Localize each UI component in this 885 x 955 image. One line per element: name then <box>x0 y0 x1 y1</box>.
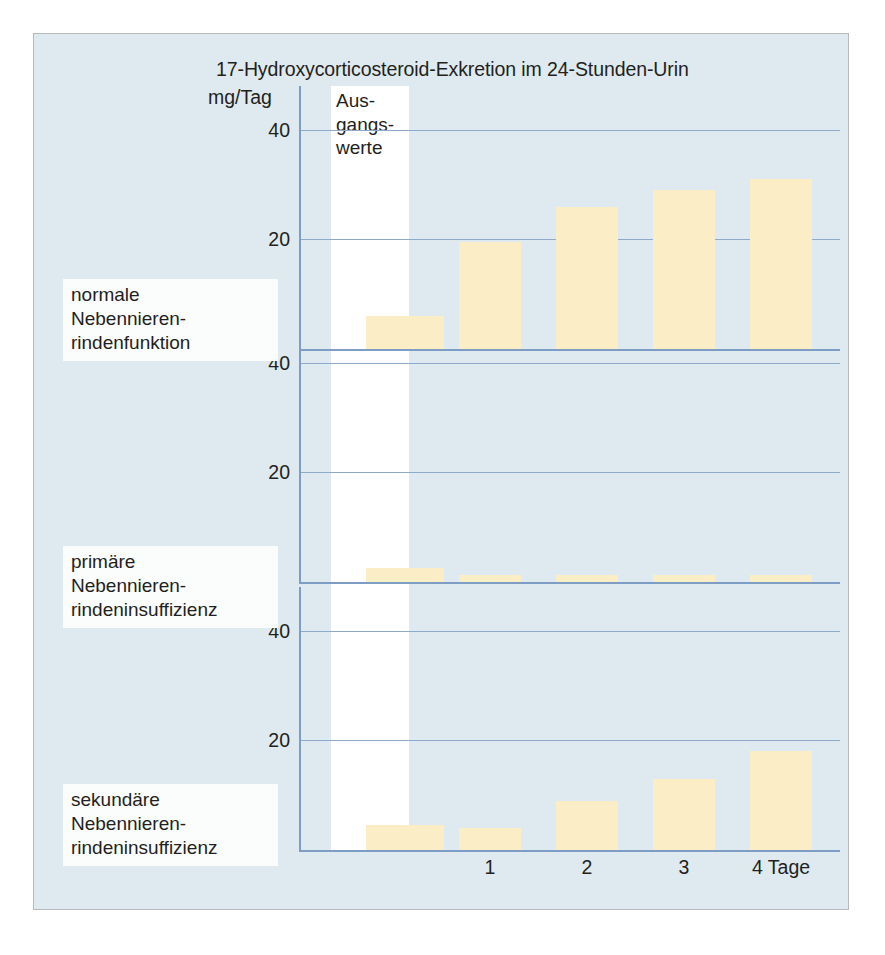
y-tick-label-20: 20 <box>268 228 290 251</box>
gridline-40 <box>301 363 840 364</box>
bar-day-4 <box>750 575 812 582</box>
bar-day-1 <box>459 828 521 850</box>
x-axis-line <box>299 582 840 584</box>
panel-caption-normal: normale Nebennieren- rindenfunktion <box>63 279 278 361</box>
bar-day-2 <box>556 575 618 582</box>
figure-panel: 17-Hydroxycorticosteroid-Exkretion im 24… <box>33 33 849 910</box>
y-tick-label-40: 40 <box>268 118 290 141</box>
y-axis-line <box>299 587 301 852</box>
bar-day-1 <box>459 575 521 582</box>
x-tick-label-3: 3 <box>679 856 690 879</box>
plot-area: 2040 <box>299 319 839 584</box>
gridline-20 <box>301 740 840 741</box>
chart-title: 17-Hydroxycorticosteroid-Exkretion im 24… <box>216 58 689 81</box>
y-axis-unit-label: mg/Tag <box>208 86 272 109</box>
gridline-40 <box>301 631 840 632</box>
y-axis-line <box>299 319 301 584</box>
chart-panel-primary: 2040 <box>264 319 839 584</box>
bar-day-4 <box>750 751 812 850</box>
gridline-20 <box>301 472 840 473</box>
plot-area: 2040 <box>299 86 839 351</box>
plot-area: 2040 <box>299 587 839 852</box>
bar-baseline <box>366 568 444 582</box>
bar-day-3 <box>653 575 715 582</box>
x-axis-line <box>299 850 840 852</box>
x-axis-labels: 1234 Tage <box>299 856 839 890</box>
panel-caption-secondary: sekundäre Nebennieren- rindeninsuffizien… <box>63 784 278 866</box>
bar-day-3 <box>653 779 715 850</box>
x-tick-label-4: 4 Tage <box>752 856 810 879</box>
y-tick-label-20: 20 <box>268 729 290 752</box>
y-tick-label-20: 20 <box>268 461 290 484</box>
chart-panel-normal: 2040 <box>264 86 839 351</box>
bar-baseline <box>366 825 444 850</box>
bar-day-2 <box>556 801 618 850</box>
x-tick-label-2: 2 <box>582 856 593 879</box>
y-axis-line <box>299 86 301 351</box>
gridline-40 <box>301 130 840 131</box>
panel-caption-primary: primäre Nebennieren- rindeninsuffizienz <box>63 546 278 628</box>
chart-panel-secondary: 2040 <box>264 587 839 852</box>
x-tick-label-1: 1 <box>485 856 496 879</box>
